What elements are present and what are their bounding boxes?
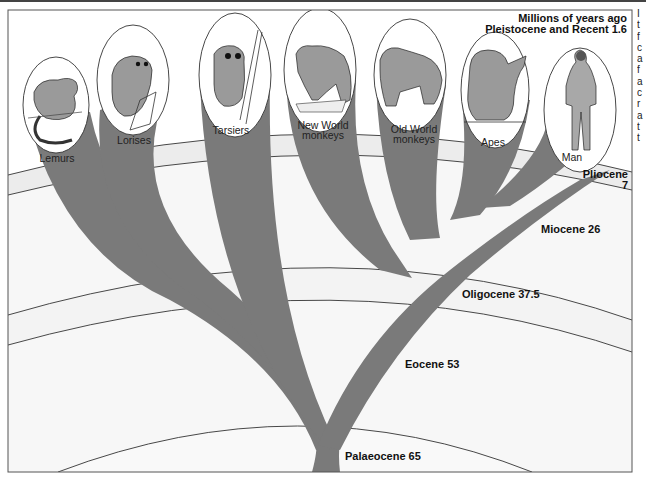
label-palaeocene: Palaeocene 65 [345, 450, 421, 462]
cropped-caption-text: I t f c a f a c r a t t [637, 8, 646, 144]
medallion-new-world-monkeys [284, 8, 356, 132]
label-lemurs: Lemurs [39, 152, 74, 164]
caption-letter: f [637, 31, 646, 42]
caption-letter: t [637, 132, 646, 143]
label-pleistocene-recent: Pleistocene and Recent 1.6 [485, 23, 627, 35]
medallion-lorises [97, 25, 169, 135]
caption-letter: I [637, 8, 646, 19]
medallion-lemurs [23, 57, 89, 153]
caption-letter: f [637, 64, 646, 75]
label-new-world-line2: monkeys [302, 129, 344, 141]
caption-letter: t [637, 121, 646, 132]
label-lorises: Lorises [117, 134, 151, 146]
caption-letter: a [637, 53, 646, 64]
label-old-world-line2: monkeys [393, 133, 435, 145]
medallion-apes [461, 32, 529, 148]
caption-letter: t [637, 19, 646, 30]
label-miocene: Miocene 26 [541, 223, 600, 235]
primate-evolution-diagram: Lemurs Lorises Tarsiers New World monkey… [0, 0, 646, 479]
label-apes: Apes [481, 136, 505, 148]
medallion-old-world-monkeys [374, 19, 446, 131]
caption-letter: c [637, 42, 646, 53]
label-man: Man [562, 151, 583, 163]
caption-letter: a [637, 110, 646, 121]
caption-letter: c [637, 87, 646, 98]
label-pliocene-mya: 7 [622, 179, 628, 191]
medallion-tarsiers [199, 13, 271, 137]
label-oligocene: Oligocene 37.5 [462, 288, 540, 300]
caption-letter: r [637, 98, 646, 109]
caption-letter: a [637, 76, 646, 87]
label-tarsiers: Tarsiers [213, 124, 250, 136]
label-eocene: Eocene 53 [405, 358, 459, 370]
